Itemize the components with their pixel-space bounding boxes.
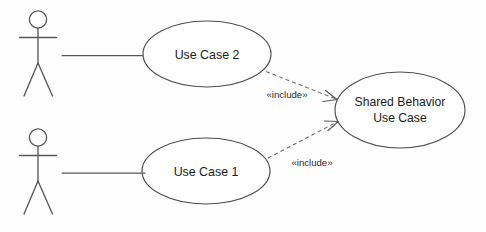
actor-head-icon bbox=[29, 129, 46, 146]
actor-bottom[interactable] bbox=[20, 129, 57, 214]
shared-behavior-label-line1: Shared Behavior bbox=[355, 95, 446, 109]
use-case-1-label: Use Case 1 bbox=[174, 165, 239, 179]
diagram-canvas: Use Case 2 «include» Shared Behavior Use… bbox=[0, 0, 486, 232]
actor-right-leg-line bbox=[38, 63, 53, 96]
include-relationship-top[interactable]: «include» bbox=[266, 72, 337, 102]
include-dashed-line-bottom bbox=[268, 122, 337, 158]
uml-use-case-diagram: Use Case 2 «include» Shared Behavior Use… bbox=[0, 0, 486, 232]
include-stereotype-label-bottom: «include» bbox=[291, 157, 332, 168]
use-case-2-node[interactable]: Use Case 2 bbox=[143, 21, 271, 87]
include-relationship-bottom[interactable]: «include» bbox=[268, 121, 339, 168]
include-arrowhead-top bbox=[323, 91, 337, 102]
actor-left-leg-line bbox=[24, 63, 38, 96]
include-stereotype-label-top: «include» bbox=[266, 89, 307, 100]
use-case-1-node[interactable]: Use Case 1 bbox=[142, 138, 270, 204]
shared-behavior-label-line2: Use Case bbox=[373, 111, 427, 125]
shared-behavior-ellipse bbox=[335, 72, 465, 148]
actor-left-leg-line bbox=[24, 181, 38, 214]
use-case-2-label: Use Case 2 bbox=[175, 48, 240, 62]
actor-head-icon bbox=[29, 11, 46, 28]
actor-top[interactable] bbox=[20, 11, 57, 96]
shared-behavior-use-case-node[interactable]: Shared Behavior Use Case bbox=[335, 72, 465, 148]
actor-right-leg-line bbox=[38, 181, 53, 214]
